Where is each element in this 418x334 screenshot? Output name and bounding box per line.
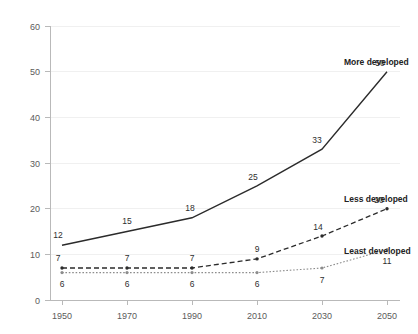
- point-label-less-1950: 7: [56, 253, 61, 263]
- point-label-more-1990: 18: [185, 203, 195, 213]
- point-label-less-2030: 14: [313, 222, 323, 232]
- point-label-more-2010: 25: [248, 172, 258, 182]
- point-label-least-1970: 6: [125, 279, 130, 289]
- y-tick-label-20: 20: [30, 204, 40, 214]
- y-tick-label-0: 0: [35, 296, 40, 306]
- line-chart: 60 50 40 30 20 10 0 1950 1970 1990 2010 …: [0, 0, 418, 334]
- x-tick-label-2010: 2010: [247, 311, 267, 321]
- point-label-least-2010: 6: [255, 279, 260, 289]
- point-label-more-1950: 12: [53, 230, 63, 240]
- y-tick-label-40: 40: [30, 113, 40, 123]
- y-axis-ticks: [45, 26, 50, 300]
- point-label-more-2030: 33: [312, 135, 322, 145]
- chart-container: 60 50 40 30 20 10 0 1950 1970 1990 2010 …: [0, 0, 418, 334]
- point-label-more-1970: 15: [122, 216, 132, 226]
- point-label-least-1950: 6: [60, 279, 65, 289]
- point-label-less-2010: 9: [255, 244, 260, 254]
- legend-label-least-developed: Least developed: [344, 246, 411, 256]
- point-label-least-1990: 6: [190, 279, 195, 289]
- legend-label-more-developed: More developed: [344, 57, 409, 67]
- point-label-less-1970: 7: [125, 253, 130, 263]
- x-tick-label-2050: 2050: [377, 311, 397, 321]
- x-tick-label-1990: 1990: [182, 311, 202, 321]
- x-axis-ticks: [62, 300, 387, 305]
- x-tick-label-1950: 1950: [52, 311, 72, 321]
- point-label-least-2050: 11: [383, 256, 392, 266]
- x-tick-label-1970: 1970: [117, 311, 137, 321]
- point-label-less-1990: 7: [190, 253, 195, 263]
- series-more-developed: 12 15 18 25 33 50: [53, 58, 387, 245]
- gridlines: [50, 26, 400, 300]
- x-tick-label-2030: 2030: [312, 311, 332, 321]
- series-less-developed: 7 7 7 9 14 20: [56, 195, 389, 270]
- y-tick-label-50: 50: [30, 67, 40, 77]
- point-label-least-2030: 7: [320, 275, 325, 285]
- y-tick-label-10: 10: [30, 250, 40, 260]
- y-tick-label-60: 60: [30, 22, 40, 32]
- y-tick-label-30: 30: [30, 159, 40, 169]
- legend-label-less-developed: Less developed: [344, 194, 408, 204]
